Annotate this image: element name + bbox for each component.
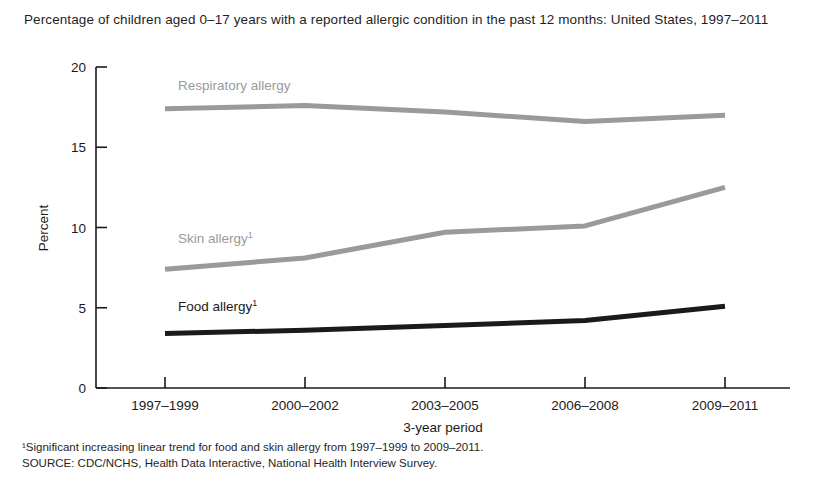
series-line-skin-allergy	[165, 187, 725, 269]
footnotes: ¹Significant increasing linear trend for…	[22, 440, 722, 471]
y-axis-tick-label: 0	[78, 381, 86, 396]
y-axis-tick-labels: 05101520	[71, 60, 86, 396]
series-label-footnote-marker: 1	[252, 298, 257, 308]
series-label-respiratory-allergy: Respiratory allergy	[178, 78, 291, 93]
x-axis-tick-label: 2006–2008	[551, 398, 619, 413]
y-axis-tick-label: 10	[71, 221, 86, 236]
series-inline-labels: Respiratory allergySkin allergy1Food all…	[178, 78, 291, 314]
y-axis-title: Percent	[36, 204, 51, 251]
x-axis-tick-label: 2000–2002	[271, 398, 339, 413]
x-axis-tick-label: 1997–1999	[131, 398, 199, 413]
footnote-significance: ¹Significant increasing linear trend for…	[22, 440, 722, 456]
y-axis-tick-label: 5	[78, 301, 86, 316]
x-axis-tick-label: 2003–2005	[411, 398, 479, 413]
series-label-food-allergy: Food allergy1	[178, 298, 257, 314]
y-axis-tick-label: 20	[71, 60, 86, 75]
x-axis-ticks	[165, 377, 725, 388]
y-axis-ticks	[96, 67, 107, 388]
x-axis-title: 3-year period	[403, 420, 483, 435]
series-label-footnote-marker: 1	[248, 230, 253, 240]
chart-figure: Percentage of children aged 0–17 years w…	[0, 0, 816, 483]
series-label-skin-allergy: Skin allergy1	[178, 230, 253, 246]
footnote-source: SOURCE: CDC/NCHS, Health Data Interactiv…	[22, 456, 722, 472]
x-axis-tick-labels: 1997–19992000–20022003–20052006–20082009…	[131, 398, 758, 413]
line-chart-svg: 05101520 1997–19992000–20022003–20052006…	[0, 0, 816, 483]
y-axis-tick-label: 15	[71, 140, 86, 155]
plot-area: 05101520 1997–19992000–20022003–20052006…	[0, 0, 816, 483]
x-axis-tick-label: 2009–2011	[692, 398, 759, 413]
series-line-respiratory-allergy	[165, 106, 725, 122]
